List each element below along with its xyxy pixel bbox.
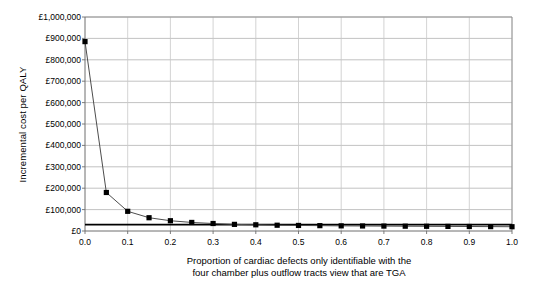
x-tick-label: 0.4 [250, 237, 262, 247]
x-tick-label: 0.7 [378, 237, 390, 247]
x-axis-title: Proportion of cardiac defects only ident… [85, 255, 513, 279]
x-axis-title-line2: four chamber plus outflow tracts view th… [85, 267, 513, 279]
x-tick-label: 0.6 [335, 237, 347, 247]
incremental-cost-per-qaly-chart: Incremental cost per QALY £0£100,000£200… [0, 0, 559, 285]
x-axis-title-line1: Proportion of cardiac defects only ident… [85, 255, 513, 267]
x-tick-label: 0.3 [207, 237, 219, 247]
x-tick-label: 0.0 [79, 237, 91, 247]
x-tick-label: 0.5 [293, 237, 305, 247]
x-tick-label: 1.0 [506, 237, 518, 247]
x-tick-label: 0.9 [463, 237, 475, 247]
x-tick-label: 0.1 [122, 237, 134, 247]
x-tick-label: 0.8 [421, 237, 433, 247]
x-axis-tick-labels: 0.00.10.20.30.40.50.60.70.80.91.0 [0, 0, 559, 285]
x-tick-label: 0.2 [164, 237, 176, 247]
